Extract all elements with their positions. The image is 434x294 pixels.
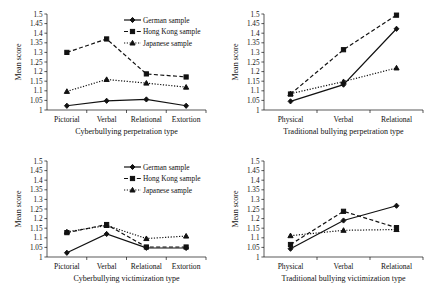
y-tick-label: 1.35	[30, 186, 43, 194]
y-tick-label: 1.5	[34, 11, 43, 19]
data-point-hongkong	[105, 37, 109, 41]
y-axis-title: Mean score	[231, 190, 240, 228]
x-category-label: Extortion	[172, 115, 201, 124]
legend-label-german: German sample	[143, 16, 190, 25]
y-tick-label: 1.4	[34, 177, 43, 185]
series-line-german	[67, 99, 186, 105]
data-point-german	[104, 98, 109, 103]
legend-label-japanese: Japanese sample	[143, 39, 193, 48]
x-category-label: Physical	[278, 115, 304, 124]
data-point-japanese	[341, 228, 346, 233]
data-point-german	[394, 203, 399, 208]
y-tick-label: 1.2	[34, 215, 43, 223]
y-tick-label: 1.3	[34, 196, 43, 204]
legend-label-japanese: Japanese sample	[143, 186, 193, 195]
y-tick-label: 1.2	[34, 68, 43, 76]
data-point-german	[144, 97, 149, 102]
y-tick-label: 1.35	[247, 186, 260, 194]
y-axis-title: Mean score	[14, 190, 23, 228]
x-category-label: Extortion	[172, 262, 201, 271]
data-point-japanese	[144, 236, 149, 241]
x-category-label: Verbal	[97, 262, 117, 271]
y-tick-label: 1.05	[30, 244, 43, 252]
panel-cyberbullying-perpetration: 11.051.11.151.21.251.31.351.41.451.5Pict…	[0, 0, 217, 147]
y-tick-label: 1.15	[247, 78, 260, 86]
y-tick-label: 1.05	[247, 244, 260, 252]
legend-label-hongkong: Hong Kong sample	[143, 27, 201, 36]
panel-cyberbullying-victimization: 11.051.11.151.21.251.31.351.41.451.5Pict…	[0, 147, 217, 294]
chart-cyberbullying-victimization: 11.051.11.151.21.251.31.351.41.451.5Pict…	[0, 147, 217, 294]
data-point-japanese	[64, 229, 69, 234]
y-tick-label: 1.3	[34, 49, 43, 57]
four-panel-figure: 11.051.11.151.21.251.31.351.41.451.5Pict…	[0, 0, 434, 294]
data-point-japanese	[144, 81, 149, 86]
data-point-japanese	[104, 77, 109, 82]
x-category-label: Verbal	[97, 115, 117, 124]
y-tick-label: 1.15	[247, 225, 260, 233]
y-tick-label: 1.15	[30, 225, 43, 233]
y-tick-label: 1.4	[251, 30, 260, 38]
y-tick-label: 1.05	[247, 97, 260, 105]
legend-marker-japanese	[130, 187, 135, 192]
y-tick-label: 1.4	[34, 30, 43, 38]
data-point-german	[184, 103, 189, 108]
data-point-german	[288, 99, 293, 104]
data-point-german	[341, 218, 346, 223]
y-tick-label: 1.25	[30, 206, 43, 214]
y-tick-label: 1.25	[30, 59, 43, 67]
x-category-label: Verbal	[334, 262, 354, 271]
data-point-japanese	[184, 233, 189, 238]
x-category-label: Relational	[131, 262, 162, 271]
data-point-hongkong	[144, 245, 148, 249]
legend-label-hongkong: Hong Kong sample	[143, 174, 201, 183]
y-tick-label: 1.1	[34, 234, 43, 242]
data-point-hongkong	[394, 13, 398, 17]
series-line-japanese	[67, 79, 186, 91]
y-tick-label: 1.45	[30, 167, 43, 175]
y-tick-label: 1.3	[251, 196, 260, 204]
x-category-label: Relational	[381, 115, 412, 124]
y-tick-label: 1.3	[251, 49, 260, 57]
x-category-label: Pictorial	[54, 115, 80, 124]
y-tick-label: 1	[256, 107, 260, 115]
x-axis-title: Traditional bullying victimization type	[282, 274, 406, 283]
y-tick-label: 1.35	[30, 39, 43, 47]
x-axis-title: Traditional bullying perpetration type	[283, 127, 404, 136]
data-point-japanese	[288, 233, 293, 238]
y-tick-label: 1.5	[251, 158, 260, 166]
y-tick-label: 1.5	[34, 158, 43, 166]
panel-traditional-bullying-victimization: 11.051.11.151.21.251.31.351.41.451.5Phys…	[217, 147, 434, 294]
y-tick-label: 1	[39, 107, 43, 115]
y-axis-title: Mean score	[14, 43, 23, 81]
chart-traditional-bullying-perpetration: 11.051.11.151.21.251.31.351.41.451.5Phys…	[217, 0, 434, 147]
x-category-label: Verbal	[334, 115, 354, 124]
x-category-label: Relational	[381, 262, 412, 271]
y-tick-label: 1.45	[247, 167, 260, 175]
data-point-german	[64, 250, 69, 255]
data-point-japanese	[184, 85, 189, 90]
data-point-japanese	[341, 79, 346, 84]
x-category-label: Physical	[278, 262, 304, 271]
y-tick-label: 1	[256, 254, 260, 262]
y-tick-label: 1.05	[30, 97, 43, 105]
legend-label-german: German sample	[143, 163, 190, 172]
y-tick-label: 1.4	[251, 177, 260, 185]
data-point-hongkong	[184, 245, 188, 249]
y-tick-label: 1.1	[34, 87, 43, 95]
y-tick-label: 1.1	[251, 234, 260, 242]
chart-cyberbullying-perpetration: 11.051.11.151.21.251.31.351.41.451.5Pict…	[0, 0, 217, 147]
y-tick-label: 1.2	[251, 215, 260, 223]
y-tick-label: 1.25	[247, 206, 260, 214]
legend-marker-hongkong	[130, 176, 134, 180]
legend-marker-german	[130, 17, 135, 22]
legend-marker-japanese	[130, 40, 135, 45]
y-tick-label: 1.35	[247, 39, 260, 47]
y-tick-label: 1.45	[30, 20, 43, 28]
x-axis-title: Cyberbullying perpetration type	[75, 127, 178, 136]
y-tick-label: 1.15	[30, 78, 43, 86]
legend-marker-german	[130, 164, 135, 169]
data-point-hongkong	[184, 75, 188, 79]
y-tick-label: 1.45	[247, 20, 260, 28]
data-point-japanese	[394, 65, 399, 70]
y-axis-title: Mean score	[231, 43, 240, 81]
